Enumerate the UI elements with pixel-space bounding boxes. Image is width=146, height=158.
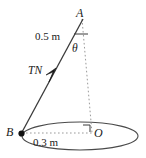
mechanics-diagram-figure: A B O θ TN 0.5 m 0.3 m — [0, 0, 146, 158]
axis-line-AO — [82, 19, 92, 133]
point-b-dot-icon — [18, 130, 24, 136]
label-length-bo: 0.3 m — [33, 137, 58, 148]
tension-arrow-icon — [46, 68, 56, 82]
label-angle-theta: θ — [72, 43, 78, 55]
right-angle-mark-icon — [83, 125, 90, 132]
label-point-b: B — [6, 126, 13, 138]
label-length-ab: 0.5 m — [35, 31, 60, 42]
label-tension-tn: TN — [28, 65, 42, 77]
diagram-canvas — [0, 0, 146, 158]
label-point-o: O — [94, 127, 103, 139]
label-point-a: A — [76, 7, 83, 19]
